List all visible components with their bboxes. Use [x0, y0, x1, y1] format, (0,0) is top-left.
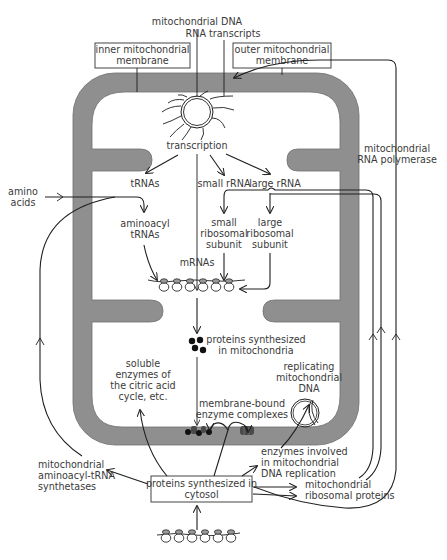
to-dna-replication-enzymes-arrow	[242, 466, 257, 476]
aminoacyl-trnas-label-line2: tRNAs	[130, 229, 159, 240]
outer-membrane-label: outer mitochondrial membrane	[233, 43, 331, 75]
large-subunit-label-line3: subunit	[252, 239, 288, 250]
small-subunit-label-line1: small	[211, 217, 237, 228]
replicating-dna-label-line1: replicating	[284, 361, 335, 372]
dna-replication-enzymes-label-line1: enzymes involved	[261, 446, 348, 457]
ribosomal-proteins-label-line2: ribosomal proteins	[305, 490, 394, 501]
rna-polymerase-label-line2: RNA polymerase	[357, 154, 437, 165]
small-rrna-label: small rRNA	[198, 178, 251, 189]
trnas-label: tRNAs	[130, 178, 159, 189]
inner-membrane-label-line2: membrane	[116, 55, 169, 66]
mitochondrial-biogenesis-diagram: inner mitochondrial membrane outer mitoc…	[0, 0, 447, 560]
mito-proteins-label-line1: proteins synthesized	[206, 334, 305, 345]
rna-polymerase-label-line1: mitochondrial	[364, 143, 430, 154]
mito-dna-label: mitochondrial DNA	[152, 16, 243, 27]
synthetases-label-line1: mitochondrial	[38, 459, 104, 470]
cytosol-proteins-box: proteins synthesized in cytosol	[146, 476, 257, 502]
small-subunit-label-line2: ribosomal	[200, 228, 247, 239]
large-subunit-label-line1: large	[258, 217, 282, 228]
small-subunit-label-line3: subunit	[206, 239, 242, 250]
soluble-enzymes-label-line4: cycle, etc.	[119, 391, 168, 402]
synthetases-label-line3: synthetases	[38, 481, 96, 492]
ribosomal-proteins-label-line1: mitochondrial	[305, 479, 371, 490]
mito-proteins-label-line2: in mitochondria	[218, 345, 293, 356]
dna-replication-enzymes-label-line3: DNA replication	[261, 468, 336, 479]
dna-replication-enzymes-label-line2: in mitochondrial	[261, 457, 339, 468]
cytosol-proteins-label-line1: proteins synthesized in	[146, 478, 257, 489]
inner-membrane-label-line1: inner mitochondrial	[96, 44, 190, 55]
amino-acids-label-line1: amino	[8, 186, 38, 197]
replicating-dna-label-line3: DNA	[298, 383, 320, 394]
membrane-bound-label-line1: membrane-bound	[199, 398, 285, 409]
soluble-enzymes-label-line1: soluble	[126, 358, 160, 369]
replicating-dna-label-line2: mitochondrial	[276, 372, 342, 383]
outer-membrane-label-line1: outer mitochondrial	[235, 44, 330, 55]
large-subunit-label-line2: ribosomal	[246, 228, 293, 239]
rna-transcripts-label: RNA transcripts	[186, 28, 261, 39]
mrnas-label: mRNAs	[180, 257, 215, 268]
aminoacyl-trnas-label-line1: aminoacyl	[120, 218, 169, 229]
cytosol-proteins-label-line2: cytosol	[184, 489, 218, 500]
transcription-label: transcription	[166, 140, 227, 151]
soluble-enzymes-label-line3: the citric acid	[110, 380, 175, 391]
membrane-bound-label-line2: enzyme complexes	[196, 409, 288, 420]
large-rrna-label: large rRNA	[249, 178, 301, 189]
cytosol-polysome-icon	[157, 530, 240, 542]
synthetases-label-line2: aminoacyl-tRNA	[38, 470, 115, 481]
amino-acids-label-line2: acids	[11, 197, 36, 208]
soluble-enzymes-label-line2: enzymes of	[115, 369, 171, 380]
